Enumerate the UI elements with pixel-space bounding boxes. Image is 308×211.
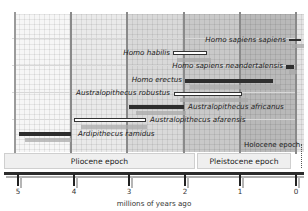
axis-shadow — [6, 176, 304, 178]
tick-label-1: 1 — [234, 187, 246, 196]
label-ardipithecus: Ardipithecus ramidus — [78, 129, 158, 138]
label-a-afarensis: Australopithecus afarensis — [150, 115, 250, 124]
tick-1 — [239, 174, 241, 186]
epoch-pleistocene-label: Pleistocene epoch — [210, 157, 279, 166]
gridline-2 — [183, 12, 185, 154]
holocene-marker — [301, 144, 303, 168]
gridline-1 — [239, 12, 241, 154]
bar-homo-habilis — [173, 51, 207, 55]
tick-2 — [184, 174, 186, 186]
gridline-5 — [14, 12, 16, 154]
shadow-bar — [292, 44, 304, 48]
bar-ardipithecus — [19, 132, 71, 136]
bar-a-afarensis — [74, 118, 146, 122]
label-a-africanus: Australopithecus africanus — [188, 102, 286, 111]
tick-5 — [17, 174, 19, 186]
bar-a-africanus — [129, 105, 184, 109]
bar-homo-erectus — [185, 79, 273, 83]
label-a-robustus: Australopithecus robustus — [60, 88, 170, 97]
epoch-pleistocene: Pleistocene epoch — [197, 153, 291, 169]
label-homo-habilis: Homo habilis — [100, 48, 170, 57]
x-axis-label: millions of years ago — [0, 199, 308, 208]
tick-3 — [128, 174, 130, 186]
bar-homo-neandertalensis — [286, 65, 294, 69]
label-homo-sapiens-sapiens: Homo sapiens sapiens — [186, 35, 286, 44]
label-homo-erectus: Homo erectus — [100, 75, 182, 84]
shadow-bar — [190, 85, 280, 89]
shadow-bar — [289, 70, 297, 74]
tick-label-2: 2 — [179, 187, 191, 196]
label-holocene: Holocene epoch — [244, 141, 300, 149]
band-present — [296, 14, 304, 152]
tick-label-4: 4 — [68, 187, 80, 196]
x-axis — [4, 172, 304, 175]
tick-label-3: 3 — [123, 187, 135, 196]
epoch-pliocene-label: Pliocene epoch — [71, 157, 128, 166]
tick-label-5: 5 — [12, 187, 24, 196]
tick-4 — [73, 174, 75, 186]
tick-0 — [295, 174, 297, 186]
hominid-timeline-chart: Homo sapiens sapiens Homo habilis Homo s… — [0, 0, 308, 211]
epoch-pliocene: Pliocene epoch — [4, 153, 195, 169]
bar-homo-sapiens-sapiens — [289, 39, 301, 41]
shadow-bar — [25, 138, 71, 142]
label-homo-neandertalensis: Homo sapiens neandertalensis — [150, 61, 283, 70]
tick-label-0: 0 — [290, 187, 302, 196]
gridline-0 — [295, 12, 297, 154]
bar-a-robustus — [174, 92, 242, 96]
